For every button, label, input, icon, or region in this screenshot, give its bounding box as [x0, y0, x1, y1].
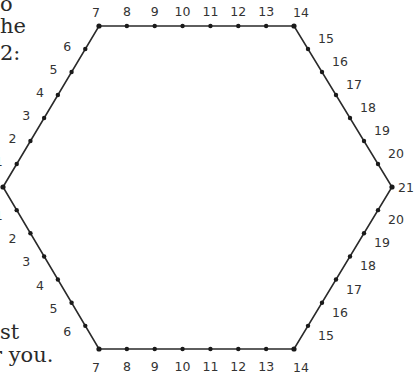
dot-number-label: 15 — [318, 328, 334, 343]
dot-number-label: 12 — [230, 4, 246, 19]
dot — [362, 139, 366, 143]
dot — [15, 208, 19, 212]
dot — [208, 24, 212, 28]
dot-number-label: 20 — [388, 212, 404, 227]
dot — [15, 162, 19, 166]
dot — [264, 347, 268, 351]
dot — [320, 70, 324, 74]
dot-number-label: 21 — [398, 180, 414, 195]
dot-number-label: 13 — [258, 4, 274, 19]
dot — [376, 162, 380, 166]
dot-number-label: 18 — [360, 258, 376, 273]
dot — [125, 24, 129, 28]
dot-number-label: 8 — [123, 359, 131, 374]
dot-number-label: 5 — [50, 62, 58, 77]
hexagon-dot-to-dot-figure: 1234568910111213151617181920201918171615… — [0, 0, 416, 377]
dot — [56, 93, 60, 97]
dot-number-label: 2 — [8, 131, 16, 146]
dot — [83, 47, 87, 51]
numbered-dots — [0, 23, 394, 351]
dot-number-label: 1 — [0, 154, 3, 169]
dot-number-label: 3 — [22, 254, 30, 269]
dot — [264, 24, 268, 28]
dot — [42, 254, 46, 258]
dot-number-label: 6 — [63, 39, 71, 54]
dot — [334, 93, 338, 97]
dot — [348, 254, 352, 258]
dot-number-label: 4 — [36, 278, 44, 293]
dot-number-label: 18 — [360, 100, 376, 115]
dot — [208, 347, 212, 351]
dot-number-label: 14 — [293, 5, 309, 20]
dot-number-label: 9 — [151, 359, 159, 374]
dot — [306, 324, 310, 328]
dot-number-label: 14 — [293, 360, 309, 375]
dot — [0, 184, 5, 189]
dot-number-label: 2 — [8, 231, 16, 246]
dot-number-label: 20 — [388, 146, 404, 161]
dot-number-label: 1 — [0, 208, 3, 223]
dot — [153, 24, 157, 28]
dot-number-label: 4 — [36, 85, 44, 100]
dot-number-label: 6 — [63, 324, 71, 339]
dot-number-label: 9 — [151, 4, 159, 19]
dot-number-label: 16 — [332, 54, 348, 69]
dot — [96, 23, 101, 28]
dot-number-label: 11 — [202, 4, 218, 19]
dot — [236, 24, 240, 28]
dot — [236, 347, 240, 351]
dot-number-label: 7 — [92, 5, 100, 20]
dot — [42, 116, 46, 120]
dot — [28, 231, 32, 235]
dot — [334, 277, 338, 281]
dot-number-label: 8 — [123, 4, 131, 19]
dot — [56, 277, 60, 281]
dot-number-labels: 1234568910111213151617181920201918171615… — [0, 4, 414, 375]
dot — [28, 139, 32, 143]
dot — [362, 231, 366, 235]
dot — [180, 24, 184, 28]
dot — [153, 347, 157, 351]
dot-number-label: 10 — [175, 359, 191, 374]
dot-number-label: 5 — [50, 301, 58, 316]
dot — [125, 347, 129, 351]
dot — [96, 346, 101, 351]
dot-to-dot-worksheet: ohe2:str you. 12345689101112131516171819… — [0, 0, 416, 377]
dot-number-label: 10 — [175, 4, 191, 19]
dot-number-label: 19 — [374, 123, 390, 138]
dot — [320, 301, 324, 305]
dot — [389, 184, 394, 189]
dot — [180, 347, 184, 351]
dot-number-label: 16 — [332, 305, 348, 320]
dot — [376, 208, 380, 212]
dot-number-label: 17 — [346, 282, 362, 297]
dot-number-label: 17 — [346, 77, 362, 92]
dot-number-label: 19 — [374, 235, 390, 250]
dot — [291, 346, 296, 351]
dot-number-label: 15 — [318, 31, 334, 46]
hexagon-outline — [3, 26, 392, 349]
dot — [69, 70, 73, 74]
dot — [348, 116, 352, 120]
dot-number-label: 12 — [230, 359, 246, 374]
dot-number-label: 13 — [258, 359, 274, 374]
dot — [291, 23, 296, 28]
dot-number-label: 7 — [92, 360, 100, 375]
dot — [306, 47, 310, 51]
dot-number-label: 11 — [202, 359, 218, 374]
dot — [69, 301, 73, 305]
dot-number-label: 3 — [22, 108, 30, 123]
dot — [83, 324, 87, 328]
